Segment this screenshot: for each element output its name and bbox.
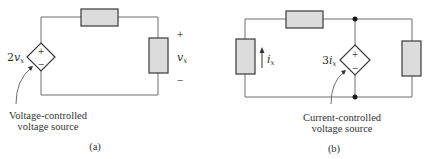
arrow-up-icon [260,47,265,53]
annotation-a-line2: voltage source [18,121,79,132]
measured-a-plus: + [177,30,184,39]
wire-b-bottom [245,74,412,97]
resistor-b-top [286,11,323,28]
wire-a-top-left [41,17,81,43]
source-a-plus: + [38,47,45,56]
resistor-a-top [81,9,118,26]
caption-b: (b) [328,143,341,155]
wire-b-top-left [245,19,286,39]
resistor-b-right [402,41,421,76]
source-a-minus: − [38,60,45,69]
junction-b-bottom [353,95,358,100]
caption-a: (a) [89,141,101,153]
resistor-a-right [149,38,168,73]
annotation-b-arrow [331,72,344,104]
wire-b-top-right [323,19,412,41]
source-b-coef: 3 [322,54,329,67]
circuit-figures: + − 2vx + vx − Voltage-controlled voltag… [0,0,424,159]
current-b-label: ix [267,53,275,67]
measured-a-minus: − [177,76,184,85]
wire-a-bottom [41,71,158,95]
source-b-minus: − [352,64,359,73]
wire-a-top-right [118,17,158,38]
source-a-sub: x [20,57,24,65]
measured-a-sub: x [183,57,187,65]
circuit-b: + − 3ix ix Current-controlled voltage so… [236,11,421,155]
source-a-label: 2vx [7,51,24,65]
source-a-coef: 2 [7,51,14,64]
annotation-a-arrow [16,68,31,104]
junction-b-top [353,17,358,22]
annotation-a-line1: Voltage-controlled [9,110,88,121]
source-b-plus: + [352,50,359,59]
source-b-label: 3ix [322,54,337,68]
current-b-sub: x [271,59,275,67]
annotation-b-line2: voltage source [312,123,373,134]
resistor-b-left [236,39,255,74]
source-b-sub: x [333,60,337,68]
annotation-b-line1: Current-controlled [303,112,382,123]
circuit-a: + − 2vx + vx − Voltage-controlled voltag… [7,9,187,153]
measured-a-label: vx [177,51,187,65]
